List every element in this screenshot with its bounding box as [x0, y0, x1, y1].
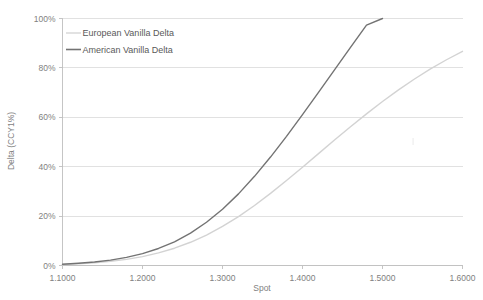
legend-label: American Vanilla Delta — [83, 45, 173, 55]
y-axis-tick-labels: 0%20%40%60%80%100% — [34, 14, 56, 271]
x-axis-tick-label: 1.6000 — [450, 273, 476, 283]
data-series — [63, 19, 463, 265]
y-axis-tick-label: 0% — [43, 261, 56, 271]
series-line — [63, 19, 383, 265]
axes — [59, 19, 463, 270]
series-line — [63, 51, 463, 264]
legend-label: European Vanilla Delta — [83, 28, 174, 38]
delta-vs-spot-line-chart: 0%20%40%60%80%100% 1.10001.20001.30001.4… — [0, 0, 483, 300]
y-axis-tick-label: 100% — [34, 14, 56, 24]
stray-mark — [413, 138, 414, 145]
x-axis-tick-labels: 1.10001.20001.30001.40001.50001.6000 — [50, 273, 476, 283]
chart-container: 0%20%40%60%80%100% 1.10001.20001.30001.4… — [0, 0, 483, 300]
gridlines — [63, 19, 463, 266]
x-axis-tick-label: 1.1000 — [50, 273, 76, 283]
y-axis-tick-label: 40% — [38, 162, 55, 172]
y-axis-tick-label: 20% — [38, 211, 55, 221]
x-axis-title: Spot — [253, 283, 271, 293]
x-axis-tick-label: 1.5000 — [370, 273, 396, 283]
y-axis-tick-label: 80% — [38, 63, 55, 73]
chart-legend: European Vanilla DeltaAmerican Vanilla D… — [66, 28, 174, 55]
x-axis-tick-label: 1.3000 — [210, 273, 236, 283]
x-axis-tick-label: 1.4000 — [290, 273, 316, 283]
y-axis-tick-label: 60% — [38, 112, 55, 122]
x-axis-tick-label: 1.2000 — [130, 273, 156, 283]
y-axis-title: Delta (CCY1%) — [6, 112, 16, 170]
